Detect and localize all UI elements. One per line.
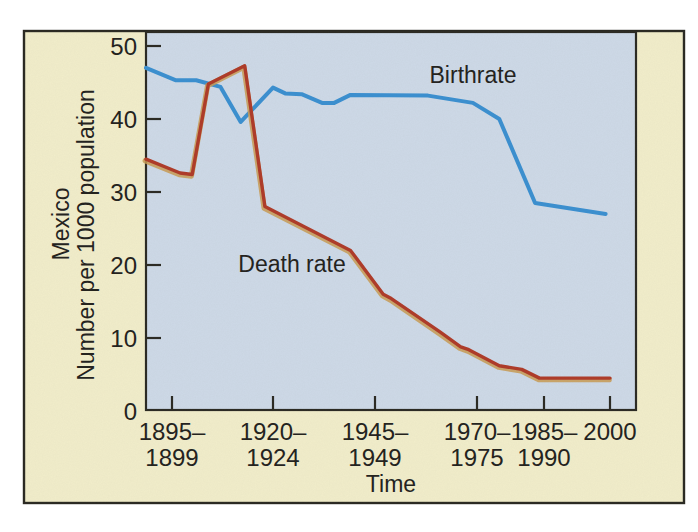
scanned-page: 50403020100 1895–18991920–19241945–19491…	[0, 0, 698, 532]
figure-canvas: 50403020100 1895–18991920–19241945–19491…	[0, 0, 698, 532]
paper-grain-overlay	[24, 31, 684, 503]
